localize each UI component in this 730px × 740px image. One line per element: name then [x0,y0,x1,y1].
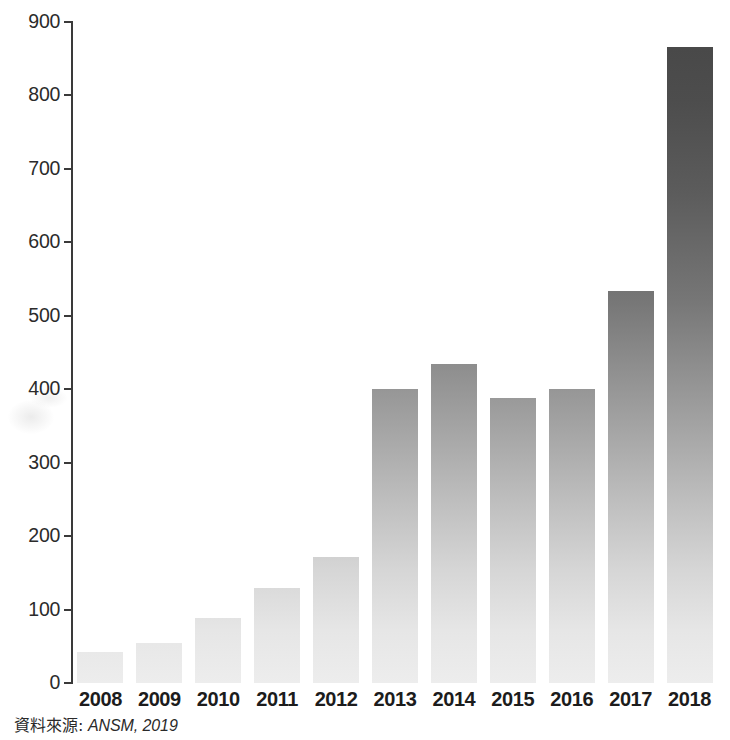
y-axis-tick [64,241,72,243]
bar [431,364,477,683]
y-axis-tick-label: 0 [8,671,60,694]
bar [549,389,595,684]
y-axis-tick [64,94,72,96]
bar [195,618,241,683]
y-axis-tick [64,462,72,464]
bar-fill [372,389,418,684]
bar-fill [77,652,123,683]
y-axis-tick [64,21,72,23]
source-label: 資料來源: [14,716,83,735]
bar-fill [313,557,359,683]
y-axis-tick-label: 200 [8,524,60,547]
bar-fill [254,588,300,683]
bar [77,652,123,683]
bar-chart-figure: 0100200300400500600700800900 20082009201… [0,0,730,740]
bar [313,557,359,683]
bar-fill [608,291,654,683]
bar [136,643,182,683]
bar-fill [431,364,477,683]
bar-fill [667,47,713,683]
bar [490,398,536,683]
y-axis-tick-label: 400 [8,377,60,400]
y-axis-tick [64,535,72,537]
scan-artifact [8,400,54,434]
y-axis-tick [64,168,72,170]
plot-area [72,22,720,683]
bar [608,291,654,683]
source-caption: 資料來源: ANSM, 2019 [14,712,178,736]
y-axis-tick-label: 500 [8,304,60,327]
source-value: ANSM, 2019 [88,717,178,734]
bar-fill [136,643,182,683]
y-axis-tick-label: 700 [8,157,60,180]
y-axis-tick-label: 800 [8,83,60,106]
y-axis-tick-label: 600 [8,230,60,253]
y-axis-tick-label: 100 [8,598,60,621]
bar [372,389,418,684]
y-axis-tick [64,388,72,390]
y-axis-tick [64,609,72,611]
y-axis-tick [64,682,72,684]
y-axis-tick-label: 300 [8,451,60,474]
y-axis-tick [64,315,72,317]
x-axis-tick-label: 2018 [650,688,730,711]
bar-fill [549,389,595,684]
bar [667,47,713,683]
bar-fill [490,398,536,683]
bar [254,588,300,683]
y-axis-tick-label: 900 [8,10,60,33]
bar-fill [195,618,241,683]
